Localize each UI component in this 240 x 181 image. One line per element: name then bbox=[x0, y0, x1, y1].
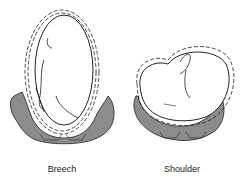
shoulder-label: Shoulder bbox=[132, 164, 232, 174]
breech-illustration bbox=[0, 0, 240, 181]
breech-label: Breech bbox=[12, 164, 112, 174]
